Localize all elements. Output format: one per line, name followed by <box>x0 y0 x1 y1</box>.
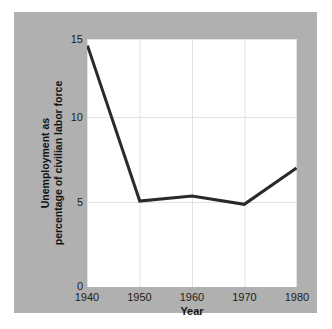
x-tick-1980: 1980 <box>267 291 327 303</box>
plot-area <box>87 39 297 287</box>
data-line-unemployment-rate <box>87 39 297 287</box>
x-axis-title: Year <box>87 305 297 317</box>
y-axis-title-line-2: percentage of civilian labor force <box>52 81 65 246</box>
chart-figure: 15 10 5 0 Unemployment as percentage of … <box>0 0 332 329</box>
x-tick-1950: 1950 <box>110 291 170 303</box>
y-axis-title: Unemployment as percentage of civilian l… <box>36 39 68 287</box>
chart-panel-background: 15 10 5 0 Unemployment as percentage of … <box>14 12 317 313</box>
x-tick-1970: 1970 <box>215 291 275 303</box>
x-tick-1960: 1960 <box>162 291 222 303</box>
x-tick-1940: 1940 <box>57 291 117 303</box>
y-axis-title-line-1: Unemployment as <box>39 118 51 208</box>
y-axis-title-text: Unemployment as percentage of civilian l… <box>39 81 65 246</box>
